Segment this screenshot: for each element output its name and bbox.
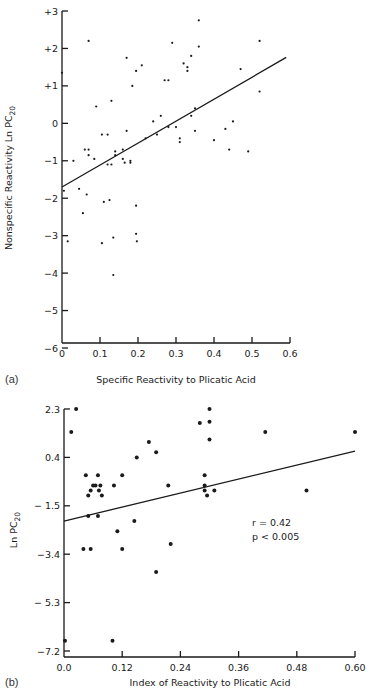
panel-b-data-point xyxy=(166,483,170,487)
panel-a-data-point xyxy=(126,57,128,59)
panel-a-regression-line xyxy=(62,57,286,187)
panel-b-data-point xyxy=(98,483,102,487)
panel-a-y-tick-label: +2 xyxy=(44,43,58,54)
panel-a-data-point xyxy=(224,128,226,130)
panel-a-data-point xyxy=(88,154,90,156)
panel-b-data-point xyxy=(353,430,357,434)
panel-a-y-tick-label: −4 xyxy=(44,268,58,279)
panel-a-data-point xyxy=(78,188,80,190)
panel-a-data-point xyxy=(175,126,177,128)
panel-a-data-point xyxy=(129,162,131,164)
panel-b-data-point xyxy=(147,440,151,444)
panel-b-data-point xyxy=(96,473,100,477)
panel-a-data-point xyxy=(131,85,133,87)
panel-a-data-point xyxy=(240,68,242,70)
panel-b-data-point xyxy=(132,519,136,523)
panel-b-data-point xyxy=(63,639,67,643)
panel-a-data-point xyxy=(122,158,124,160)
panel-a-data-point xyxy=(129,160,131,162)
panel-a-x-axis-title: Specific Reactivity to Plicatic Acid xyxy=(96,374,256,385)
panel-a-data-point xyxy=(101,242,103,244)
panel-b-y-tick-label: − 1.5 xyxy=(34,500,60,511)
panel-b-y-axis-title-sub: 20 xyxy=(13,512,22,522)
panel-b-x-tick-label: 0.60 xyxy=(344,662,365,673)
panel-a-data-point xyxy=(213,139,215,141)
panel-b-data-point xyxy=(94,483,98,487)
panel-b-data-point xyxy=(154,570,158,574)
panel-b-x-tick-label: 0.24 xyxy=(170,662,191,673)
panel-b-data-point xyxy=(100,494,104,498)
panel-a-data-point xyxy=(124,162,126,164)
panel-b-data-point xyxy=(69,430,73,434)
panel-a-data-point xyxy=(112,274,114,276)
panel-a-y-tick-label: −3 xyxy=(44,230,58,241)
panel-a-y-axis-title: Nonspecific Reactivity Ln PC20 xyxy=(3,106,17,250)
panel-b-data-point xyxy=(135,455,139,459)
panel-a-data-point xyxy=(198,45,200,47)
panel-b-x-axis-title: Index of Reactivity to Plicatic Acid xyxy=(130,677,291,688)
panel-a-data-point xyxy=(84,148,86,150)
panel-a-data-point xyxy=(135,205,137,207)
panel-b-y-axis-title-main: Ln PC xyxy=(8,521,19,548)
panel-b-data-point xyxy=(205,494,209,498)
panel-a-data-point xyxy=(135,70,137,72)
panel-a-data-point xyxy=(171,42,173,44)
panel-a-axes: +3+2+10−1−2−3−4−5−600.10.20.30.40.50.6 xyxy=(44,6,298,360)
panel-a-data-point xyxy=(259,40,261,42)
panel-a-data-point xyxy=(107,163,109,165)
panel-b-data-point xyxy=(89,547,93,551)
panel-a-data-point xyxy=(122,148,124,150)
panel-a-data-point xyxy=(259,90,261,92)
panel-b-data-point xyxy=(154,450,158,454)
panel-a-data-point xyxy=(112,236,114,238)
panel-a-y-tick-label: +1 xyxy=(44,80,58,91)
panel-b-data-point xyxy=(208,420,212,424)
panel-b-data-point xyxy=(89,489,93,493)
panel-b-y-tick-label: 2.3 xyxy=(45,404,60,415)
panel-a-data-point xyxy=(61,72,63,74)
panel-b-data-point xyxy=(208,407,212,411)
panel-b-y-tick-label: − 5.3 xyxy=(34,597,60,608)
panel-b-label: (b) xyxy=(5,676,18,688)
panel-a-data-point xyxy=(186,70,188,72)
panel-a-data-point xyxy=(63,190,65,192)
panel-b-data-point xyxy=(120,547,124,551)
panel-b-axes: 2.30.4− 1.5−3.4− 5.3−7.20.00.120.240.360… xyxy=(34,404,366,674)
panel-a-data-point xyxy=(179,141,181,143)
panel-b-annotation-r: r = 0.42 xyxy=(252,517,291,528)
panel-a-y-tick-label: −2 xyxy=(44,193,58,204)
panel-a-data-point xyxy=(72,160,74,162)
panel-a-data-point xyxy=(101,133,103,135)
panel-a-data-point xyxy=(152,120,154,122)
panel-a-data-point xyxy=(186,66,188,68)
panel-a-data-point xyxy=(82,212,84,214)
panel-a-y-tick-label: −6 xyxy=(44,343,58,354)
panel-b-data-point xyxy=(115,529,119,533)
panel-b-x-tick-label: 0.0 xyxy=(56,662,71,673)
panel-a-data-point xyxy=(107,133,109,135)
panel-a-points xyxy=(61,19,261,276)
panel-a-data-point xyxy=(110,100,112,102)
panel-a: +3+2+10−1−2−3−4−5−600.10.20.30.40.50.6 S… xyxy=(3,6,298,386)
panel-a-y-axis-title-sub: 20 xyxy=(8,106,17,116)
panel-a-data-point xyxy=(190,55,192,57)
panel-a-data-point xyxy=(194,130,196,132)
panel-a-data-point xyxy=(136,240,138,242)
panel-b-data-point xyxy=(96,514,100,518)
panel-a-data-point xyxy=(232,120,234,122)
panel-b-data-point xyxy=(111,639,115,643)
panel-b-data-point xyxy=(305,489,309,493)
panel-a-data-point xyxy=(110,163,112,165)
panel-a-y-tick-label: +3 xyxy=(44,6,58,17)
panel-b-y-tick-label: −3.4 xyxy=(37,549,60,560)
panel-a-x-tick-label: 0 xyxy=(59,348,65,359)
panel-a-data-point xyxy=(160,115,162,117)
panel-b-annotation-p: p < 0.005 xyxy=(252,531,299,542)
panel-b-y-tick-label: 0.4 xyxy=(45,452,60,463)
panel-a-data-point xyxy=(135,233,137,235)
panel-a-data-point xyxy=(198,19,200,21)
panel-a-data-point xyxy=(67,240,69,242)
panel-a-y-tick-label: −1 xyxy=(44,155,58,166)
panel-b-data-point xyxy=(86,494,90,498)
panel-b-data-point xyxy=(263,430,267,434)
